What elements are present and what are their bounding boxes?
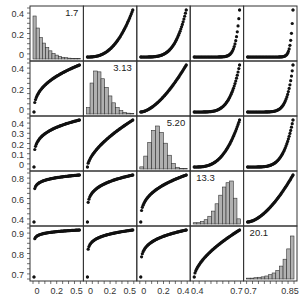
histogram-cell: 5.20 (137, 116, 190, 171)
histogram-cell: 3.13 (83, 61, 136, 116)
histogram-cell: 1.7 (30, 6, 83, 61)
x-tick-label: 0.2 (157, 286, 170, 296)
variable-label: 13.3 (196, 172, 215, 183)
y-tick-label: 0.2 (11, 85, 24, 95)
scatter-cell (30, 116, 83, 171)
y-tick-label: 0.9 (11, 229, 24, 239)
y-tick-label: 0.8 (11, 250, 24, 260)
x-axis: 0.40.7 (191, 281, 243, 296)
histogram-cell: 20.1 (244, 226, 297, 281)
scatter-cell (244, 61, 297, 116)
y-tick-label: 0.4 (11, 215, 24, 225)
y-axis: 0.40.60.8 (11, 173, 30, 225)
scatter-cell (190, 61, 243, 116)
x-axis: 00.20.5 (86, 281, 136, 296)
variable-label: 5.20 (167, 117, 186, 128)
x-axis: 00.20.4 (140, 281, 190, 296)
variable-label: 3.13 (113, 62, 132, 73)
x-tick-label: 0.4 (191, 286, 204, 296)
scatter-cell (190, 226, 243, 281)
variable-label: 1.7 (65, 7, 78, 18)
y-axis: 00.20.4 (11, 8, 30, 60)
scatter-cell (83, 6, 136, 61)
y-tick-label: 0.8 (11, 174, 24, 184)
scatter-cell (30, 226, 83, 281)
scatter-cell (30, 61, 83, 116)
x-axis: 0.70.85 (244, 281, 298, 296)
scatter-cell (190, 6, 243, 61)
scatter-cell (137, 226, 190, 281)
x-tick-label: 0.85 (281, 286, 299, 296)
y-tick-label: 0.7 (11, 270, 24, 280)
scatter-cell (137, 61, 190, 116)
y-tick-label: 0 (19, 105, 24, 115)
y-tick-label: 0.6 (11, 195, 24, 205)
x-tick-label: 0.7 (230, 286, 243, 296)
scatter-cell (83, 116, 136, 171)
scatter-cell (30, 171, 83, 226)
x-tick-label: 0 (88, 286, 93, 296)
variable-label: 20.1 (250, 227, 269, 238)
x-tick-label: 0.5 (124, 286, 137, 296)
x-tick-label: 0 (141, 286, 146, 296)
y-tick-label: 0.1 (11, 150, 24, 160)
scatter-cell (83, 226, 136, 281)
x-tick-label: 0.4 (177, 286, 190, 296)
y-axis: 00.10.20.30.4 (11, 118, 30, 170)
scatter-cell (137, 171, 190, 226)
y-tick-label: 0.3 (11, 129, 24, 139)
x-tick-label: 0.7 (244, 286, 257, 296)
y-tick-label: 0.4 (11, 64, 24, 74)
y-tick-label: 0.2 (11, 140, 24, 150)
scatter-cell (244, 6, 297, 61)
scatter-cell (244, 116, 297, 171)
scatter-cell (137, 6, 190, 61)
x-axis: 00.20.5 (33, 281, 83, 296)
histogram-cell: 13.3 (190, 171, 243, 226)
scatter-cell (244, 171, 297, 226)
x-tick-label: 0.2 (104, 286, 117, 296)
scatter-cell (83, 171, 136, 226)
scatter-cell (190, 116, 243, 171)
y-axis: 00.20.4 (11, 63, 30, 115)
x-tick-label: 0.2 (50, 286, 63, 296)
y-tick-label: 0 (19, 50, 24, 60)
y-axis: 0.70.80.9 (11, 228, 30, 280)
y-tick-label: 0.4 (11, 119, 24, 129)
x-tick-label: 0.5 (70, 286, 83, 296)
x-tick-label: 0 (34, 286, 39, 296)
scatterplot-matrix: 1.73.135.2013.320.100.20.400.20.400.10.2… (0, 0, 301, 301)
y-tick-label: 0.4 (11, 9, 24, 19)
y-tick-label: 0 (19, 160, 24, 170)
y-tick-label: 0.2 (11, 30, 24, 40)
